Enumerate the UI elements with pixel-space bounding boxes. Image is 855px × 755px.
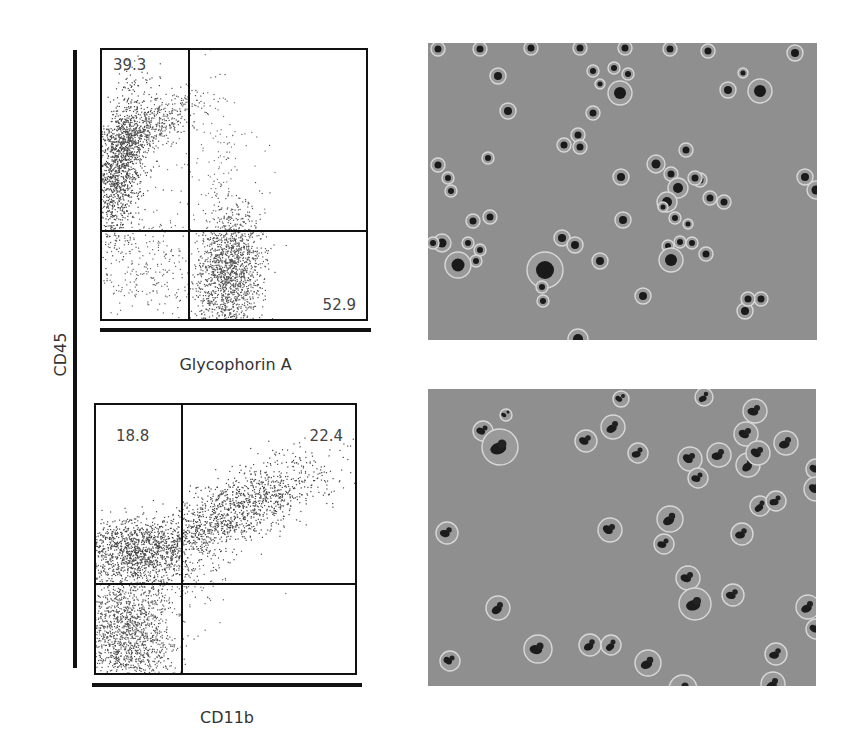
quadrant-gate-vertical <box>181 405 183 673</box>
x-axis-label-cd11b: CD11b <box>92 708 362 727</box>
x-axis-line-cd11b <box>92 683 362 687</box>
quadrant-label-upper-left: 39.3 <box>113 56 146 74</box>
quadrant-label-upper-left: 18.8 <box>116 427 149 445</box>
y-axis-line <box>73 50 77 668</box>
quadrant-label-lower-right: 52.9 <box>323 296 356 314</box>
scatter-dots <box>96 405 357 675</box>
y-axis-label-cd45: CD45 <box>51 325 70 385</box>
scatter-dots <box>102 50 368 321</box>
flow-plot-cd11b: 18.8 22.4 <box>94 403 357 675</box>
micrograph-bottom <box>428 389 816 686</box>
micrograph-top <box>428 43 817 340</box>
quadrant-gate-horizontal <box>96 583 355 585</box>
quadrant-gate-horizontal <box>102 230 366 232</box>
quadrant-gate-vertical <box>188 50 190 319</box>
micrograph-cells <box>428 389 816 686</box>
x-axis-label-glycophorin: Glycophorin A <box>100 355 371 374</box>
quadrant-label-upper-right: 22.4 <box>310 427 343 445</box>
micrograph-cells <box>428 43 817 340</box>
flow-plot-glycophorin: 39.3 52.9 <box>100 48 368 321</box>
x-axis-line-glycophorin <box>100 328 371 332</box>
